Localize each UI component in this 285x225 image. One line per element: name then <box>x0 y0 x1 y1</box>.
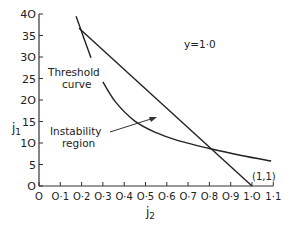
y-param-label: y=1·0 <box>184 38 216 50</box>
threshold-label-line1: Threshold <box>47 66 100 78</box>
straight-line <box>79 28 252 186</box>
x-tick-label: 1·1 <box>265 191 281 202</box>
x-axis-label: j2 <box>145 205 155 221</box>
y-tick-label: 2O <box>20 94 36 107</box>
series <box>76 16 271 186</box>
x-tick-label: O·9 <box>222 191 239 202</box>
x-tick-label: O·4 <box>115 191 132 202</box>
x-tick-label: O·7 <box>179 191 196 202</box>
x-tick-label: O·2 <box>73 191 90 202</box>
y-axis-label: j1 <box>11 121 21 137</box>
instability-label-line2: region <box>62 137 95 149</box>
chart: O51O152O253O354OOO·1O·2O·3O·4O·5O·6O·7O·… <box>0 0 285 225</box>
y-tick-label: 15 <box>22 116 36 129</box>
x-tick-label: O·8 <box>201 191 218 202</box>
y-tick-label: 35 <box>22 30 36 43</box>
x-tick-label: O·6 <box>158 191 175 202</box>
x-tick-label: 1·O <box>243 191 261 202</box>
axes <box>39 14 273 186</box>
threshold-curve-lower <box>103 82 271 161</box>
instability-arrow <box>110 118 154 132</box>
y-tick-label: 1O <box>20 137 36 150</box>
arrow-head-icon <box>149 117 157 122</box>
y-tick-label: 3O <box>20 51 36 64</box>
x-tick-label: O·5 <box>137 191 154 202</box>
threshold-label-line2: curve <box>62 78 91 90</box>
x-tick-label: O·1 <box>52 191 69 202</box>
y-tick-label: 5 <box>29 159 36 172</box>
ticks: O51O152O253O354OOO·1O·2O·3O·4O·5O·6O·7O·… <box>20 8 281 202</box>
point-label: (1,1) <box>252 171 276 182</box>
y-tick-label: 4O <box>20 8 36 21</box>
instability-label-line1: Instability <box>50 125 102 137</box>
y-tick-label: 25 <box>22 73 36 86</box>
x-tick-label: O <box>35 191 43 202</box>
x-tick-label: O·3 <box>94 191 111 202</box>
